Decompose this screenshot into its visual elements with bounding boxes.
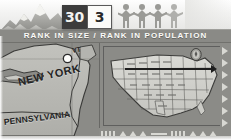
page-bottom-edge <box>0 136 231 140</box>
page-left-edge <box>0 36 3 140</box>
pointer-arrow-icon <box>125 68 213 70</box>
inset-border-bottom <box>99 125 231 136</box>
rank-in-population-badge: 3 <box>87 5 112 29</box>
rank-badges: 30 3 <box>62 5 112 29</box>
new-york-region-map: NEW YORK PENNSYLVANIA VT <box>0 43 100 136</box>
capital-city-dot <box>64 55 71 62</box>
section-header-title: RANK IN SIZE / RANK IN POPULATION <box>0 31 231 41</box>
rank-in-size-badge: 30 <box>62 5 87 29</box>
people-holding-hands-icon <box>118 3 188 30</box>
top-illustration-strip <box>0 0 231 31</box>
rank-in-size-value: 30 <box>65 10 84 24</box>
section-header-bar: RANK IN SIZE / RANK IN POPULATION <box>0 29 231 43</box>
paper-fade <box>185 0 231 31</box>
rank-in-population-value: 3 <box>95 10 104 24</box>
state-fact-panel: 30 3 RANK IN SIZE / RANK IN POPULATION <box>0 0 231 140</box>
inset-border-right <box>220 43 231 136</box>
state-seal-icon <box>190 47 202 60</box>
us-map-outline <box>105 49 223 123</box>
united-states-locator-map <box>99 43 231 136</box>
